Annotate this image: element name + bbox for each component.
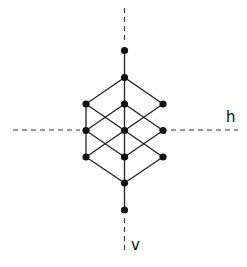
lattice-node <box>82 153 89 160</box>
lattice-node <box>121 100 128 107</box>
lattice-node <box>159 100 166 107</box>
lattice-edge <box>86 78 125 105</box>
lattice-node <box>121 206 128 213</box>
lattice-node <box>121 153 128 160</box>
lattice-node <box>82 100 89 107</box>
lattice-node <box>159 127 166 134</box>
lattice-edge <box>86 157 125 183</box>
lattice-node <box>121 127 128 134</box>
lattice-node <box>82 127 89 134</box>
lattice-node <box>121 47 128 54</box>
lattice-node <box>121 179 128 186</box>
lattice-node <box>159 153 166 160</box>
lattice-diagram <box>0 0 247 267</box>
lattice-node <box>121 74 128 81</box>
horizontal-axis-label: h <box>226 110 236 125</box>
vertical-axis-label: v <box>131 238 140 253</box>
lattice-edge <box>125 157 164 183</box>
lattice-edge <box>125 78 164 105</box>
